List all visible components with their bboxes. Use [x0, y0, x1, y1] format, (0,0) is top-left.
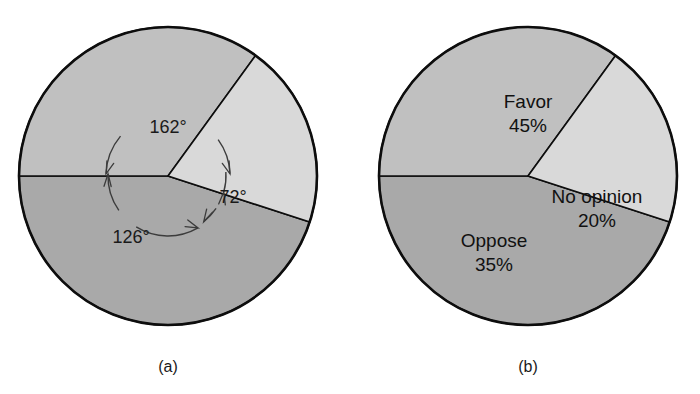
panel-b: Favor 45% Oppose 35% No opinion 20% (b)	[379, 27, 677, 375]
panel-caption-b: (b)	[518, 358, 538, 375]
figure-canvas: 162° 126° 72° (a)	[0, 0, 700, 394]
slice-name-favor: Favor	[504, 91, 553, 112]
pie-chart-figure: 162° 126° 72° (a)	[0, 0, 700, 394]
angle-label-72: 72°	[219, 187, 246, 207]
panel-caption-a: (a)	[158, 358, 178, 375]
angle-label-162: 162°	[149, 117, 186, 137]
slice-name-no-opinion: No opinion	[552, 186, 643, 207]
panel-a-slices	[19, 27, 317, 325]
angle-label-126: 126°	[112, 227, 149, 247]
slice-name-oppose: Oppose	[461, 230, 528, 251]
panel-b-slices	[379, 27, 677, 325]
slice-percent-favor: 45%	[509, 115, 547, 136]
slice-percent-no-opinion: 20%	[578, 210, 616, 231]
slice-percent-oppose: 35%	[475, 254, 513, 275]
panel-a: 162° 126° 72° (a)	[19, 27, 317, 375]
